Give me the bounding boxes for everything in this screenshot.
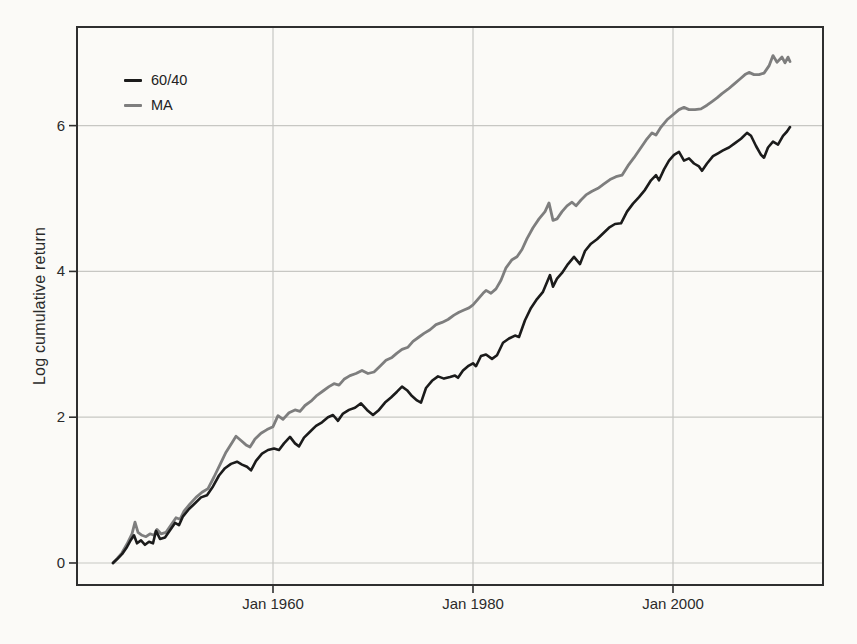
legend-label-60-40: 60/40 xyxy=(151,73,187,88)
line-swatch-ma xyxy=(124,104,142,108)
x-tick-label: Jan 1980 xyxy=(442,595,504,613)
y-axis-title: Log cumulative return xyxy=(31,227,49,385)
legend-label-ma: MA xyxy=(151,98,173,113)
y-tick-label: 0 xyxy=(23,554,65,572)
x-tick-label: Jan 1960 xyxy=(242,595,304,613)
y-tick-label: 2 xyxy=(23,408,65,426)
legend: 60/40 MA xyxy=(124,73,187,113)
legend-item-ma: MA xyxy=(124,98,187,113)
line-swatch-60-40 xyxy=(124,79,142,83)
x-tick-label: Jan 2000 xyxy=(642,595,704,613)
y-tick-label: 4 xyxy=(23,262,65,280)
legend-item-60-40: 60/40 xyxy=(124,73,187,88)
chart-page: Log cumulative return 0246Jan 1960Jan 19… xyxy=(0,0,857,644)
y-tick-label: 6 xyxy=(23,117,65,135)
